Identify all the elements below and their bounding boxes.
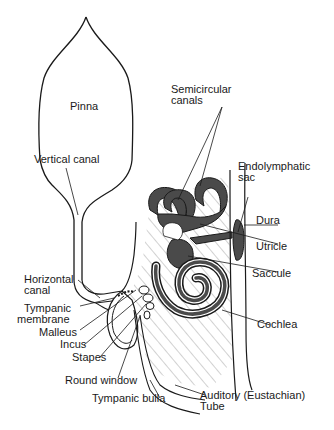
label-horizontal-canal-line2: canal	[24, 284, 50, 296]
dura-line-2	[245, 163, 252, 390]
label-malleus: Malleus	[39, 326, 77, 338]
endolymphatic-sac-shape	[233, 220, 244, 261]
label-dura: Dura	[256, 214, 280, 226]
label-tympanic-bulla: Tympanic bulla	[92, 392, 165, 404]
dura-line-1	[230, 170, 236, 400]
label-round-window: Round window	[65, 374, 137, 386]
label-vertical-canal: Vertical canal	[34, 153, 99, 165]
label-stapes: Stapes	[72, 351, 106, 363]
label-semicircular-canals-line2: canals	[171, 94, 203, 106]
stapes-shape	[146, 303, 154, 310]
diagram-drawing	[0, 0, 334, 430]
malleus-shape	[139, 286, 149, 294]
ossicle-knob	[144, 311, 150, 319]
ear-canal-inner	[82, 222, 136, 294]
ear-anatomy-diagram: Pinna Vertical canal Semicircular canals…	[0, 0, 334, 430]
label-incus: Incus	[60, 338, 86, 350]
pinna-outline-right	[82, 17, 133, 280]
label-pinna: Pinna	[70, 100, 98, 112]
label-cochlea: Cochlea	[257, 318, 297, 330]
label-auditory-tube-line2: Tube	[200, 400, 225, 412]
label-saccule: Saccule	[252, 267, 291, 279]
incus-shape	[143, 294, 153, 302]
pinna-outline	[39, 17, 86, 280]
label-utricle: Utricle	[256, 240, 287, 252]
label-endolymphatic-sac-line2: sac	[238, 171, 255, 183]
label-tympanic-membrane-line2: membrane	[17, 313, 70, 325]
